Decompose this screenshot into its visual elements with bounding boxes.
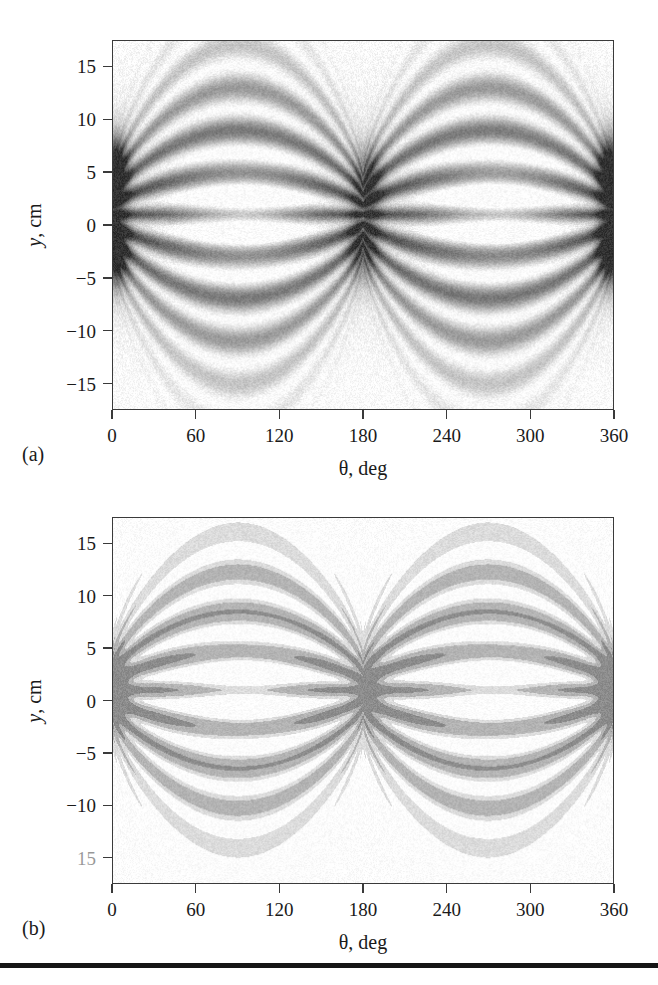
- y-tick-b-3: [103, 700, 112, 701]
- x-tick-label-a-4: 240: [432, 426, 461, 445]
- y-tick-a-5: [103, 330, 112, 331]
- plot-frame-b: [112, 517, 614, 884]
- x-tick-b-6: [613, 884, 614, 893]
- y-tick-b-5: [103, 805, 112, 806]
- x-tick-label-b-0: 0: [107, 900, 117, 919]
- density-map-a: [113, 41, 613, 409]
- x-axis-title-b: θ, deg: [339, 932, 387, 952]
- x-tick-label-b-4: 240: [432, 900, 461, 919]
- y-tick-label-b-3: 0: [87, 691, 97, 710]
- y-axis-title-a: y, cm: [24, 203, 44, 246]
- x-tick-label-b-3: 180: [349, 900, 378, 919]
- y-tick-a-1: [103, 119, 112, 120]
- y-tick-label-a-6: −15: [66, 374, 96, 393]
- panel-caption-b: (b): [22, 918, 45, 938]
- figure-container: 151050−5−10−15060120180240300360 y, cm θ…: [0, 0, 658, 985]
- x-tick-b-3: [362, 884, 363, 893]
- plot-frame-a: [112, 40, 614, 410]
- y-tick-a-6: [103, 383, 112, 384]
- y-tick-b-1: [103, 595, 112, 596]
- y-tick-label-b-4: −5: [76, 743, 96, 762]
- x-tick-label-a-2: 120: [265, 426, 294, 445]
- x-tick-a-1: [195, 410, 196, 419]
- y-tick-a-3: [103, 224, 112, 225]
- x-tick-label-a-6: 360: [600, 426, 629, 445]
- x-tick-a-0: [111, 410, 112, 419]
- x-tick-a-4: [446, 410, 447, 419]
- panel-caption-a: (a): [22, 444, 44, 464]
- x-tick-a-2: [279, 410, 280, 419]
- x-tick-label-b-1: 60: [186, 900, 205, 919]
- y-tick-label-a-2: 5: [87, 163, 97, 182]
- x-tick-a-3: [362, 410, 363, 419]
- y-axis-title-b: y, cm: [24, 679, 44, 722]
- x-tick-b-2: [279, 884, 280, 893]
- y-tick-label-a-5: −10: [66, 321, 96, 340]
- y-tick-label-b-1: 10: [77, 586, 96, 605]
- y-tick-a-2: [103, 171, 112, 172]
- y-tick-b-4: [103, 752, 112, 753]
- y-tick-label-b-0: 15: [77, 534, 96, 553]
- y-tick-label-a-3: 0: [87, 216, 97, 235]
- y-tick-label-b-5: −10: [66, 796, 96, 815]
- x-tick-b-5: [530, 884, 531, 893]
- x-tick-b-0: [111, 884, 112, 893]
- y-tick-b-6: [103, 857, 112, 858]
- x-tick-label-b-5: 300: [516, 900, 545, 919]
- y-tick-label-b-6: 15: [77, 848, 96, 867]
- x-tick-b-1: [195, 884, 196, 893]
- x-tick-label-a-5: 300: [516, 426, 545, 445]
- y-tick-label-a-1: 10: [77, 110, 96, 129]
- y-tick-label-b-2: 5: [87, 639, 97, 658]
- x-tick-a-6: [613, 410, 614, 419]
- x-tick-label-a-1: 60: [186, 426, 205, 445]
- y-tick-b-2: [103, 647, 112, 648]
- x-tick-label-a-0: 0: [107, 426, 117, 445]
- y-tick-a-0: [103, 66, 112, 67]
- bottom-horizontal-rule: [0, 963, 658, 968]
- y-tick-a-4: [103, 277, 112, 278]
- x-axis-title-a: θ, deg: [339, 458, 387, 478]
- x-tick-label-a-3: 180: [349, 426, 378, 445]
- x-tick-b-4: [446, 884, 447, 893]
- density-map-b: [113, 518, 613, 883]
- x-tick-label-b-6: 360: [600, 900, 629, 919]
- y-tick-label-a-4: −5: [76, 268, 96, 287]
- y-tick-b-0: [103, 543, 112, 544]
- x-tick-a-5: [530, 410, 531, 419]
- y-tick-label-a-0: 15: [77, 57, 96, 76]
- x-tick-label-b-2: 120: [265, 900, 294, 919]
